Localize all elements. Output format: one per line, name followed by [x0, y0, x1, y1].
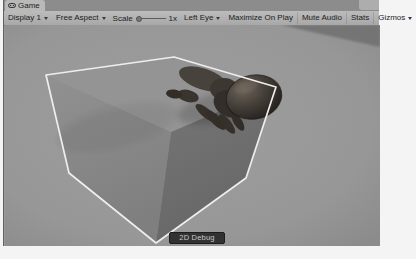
game-view-icon — [8, 2, 16, 9]
scale-label: Scale — [113, 14, 133, 23]
stats-label: Stats — [351, 12, 369, 24]
2d-debug-button[interactable]: 2D Debug — [169, 232, 225, 244]
game-scene-viewport[interactable]: 2D Debug — [5, 25, 380, 246]
aspect-dropdown-label: Free Aspect — [56, 12, 99, 24]
maximize-on-play-label: Maximize On Play — [228, 12, 292, 24]
scale-slider[interactable] — [136, 14, 166, 22]
mute-audio-label: Mute Audio — [302, 12, 342, 24]
chevron-down-icon — [44, 17, 48, 20]
maximize-on-play-button[interactable]: Maximize On Play — [224, 12, 296, 24]
tab-game-label: Game — [18, 1, 40, 11]
mute-audio-button[interactable]: Mute Audio — [297, 12, 346, 24]
tab-game[interactable]: Game — [5, 0, 45, 11]
chevron-down-icon — [102, 17, 106, 20]
gizmos-dropdown-label: Gizmos — [378, 12, 405, 24]
scale-control: Scale 1x — [110, 14, 180, 23]
aspect-dropdown[interactable]: Free Aspect — [52, 12, 110, 24]
2d-debug-button-label: 2D Debug — [179, 233, 214, 243]
eye-dropdown[interactable]: Left Eye — [180, 12, 224, 24]
tab-bar: Game — [4, 0, 379, 11]
tabbar-endcap — [359, 0, 379, 10]
scale-slider-thumb[interactable] — [136, 16, 142, 22]
game-toolbar: Display 1 Free Aspect Scale 1x Left Eye … — [4, 11, 379, 26]
game-view-window: Game Display 1 Free Aspect Scale 1x Left… — [3, 0, 379, 246]
chevron-down-icon — [408, 17, 412, 20]
stats-button[interactable]: Stats — [346, 12, 373, 24]
display-dropdown[interactable]: Display 1 — [4, 12, 52, 24]
eye-dropdown-label: Left Eye — [184, 12, 213, 24]
gizmos-dropdown[interactable]: Gizmos — [373, 12, 416, 24]
scale-value: 1x — [169, 14, 177, 23]
chevron-down-icon — [216, 17, 220, 20]
display-dropdown-label: Display 1 — [8, 12, 41, 24]
